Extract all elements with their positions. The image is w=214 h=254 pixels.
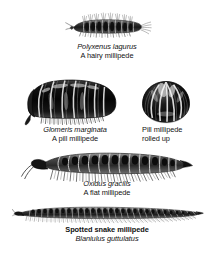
caption-spotted-snake-millipede: Spotted snake millipede Blaniulus guttul… (37, 226, 177, 243)
figure-pill-millipede (20, 76, 124, 128)
pill-millipede-common-name: A pill millipede (28, 135, 122, 144)
figure-flat-millipede (20, 148, 196, 182)
figure-pill-millipede-rolled (140, 80, 192, 126)
caption-hairy-millipede: Polyxenus lagurus A hairy millipede (37, 43, 177, 60)
caption-pill-millipede: Glomeris marginata A pill millipede (28, 126, 122, 143)
hairy-millipede-common-name: A hairy millipede (37, 52, 177, 61)
caption-pill-millipede-rolled: Pill millipede rolled up (142, 126, 208, 143)
millipede-illustration-plate: Polyxenus lagurus A hairy millipede (0, 0, 214, 254)
pill-millipede-rolled-line2: rolled up (142, 135, 208, 144)
figure-spotted-snake-millipede (12, 203, 204, 225)
caption-flat-millipede: Oxidus gracilis A flat millipede (47, 180, 167, 197)
figure-hairy-millipede (64, 10, 152, 44)
spotted-snake-millipede-scientific-name: Blaniulus guttulatus (37, 235, 177, 244)
flat-millipede-common-name: A flat millipede (47, 189, 167, 198)
